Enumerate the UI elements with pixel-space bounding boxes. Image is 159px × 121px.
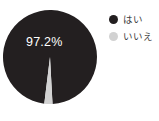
chart-legend: はい いいえ: [109, 11, 159, 45]
legend-swatch-icon-hai: [109, 15, 118, 24]
legend-item-iie[interactable]: いいえ: [109, 28, 159, 45]
pie-chart-area: 97.2%: [0, 0, 101, 121]
pie-slices: [3, 10, 97, 104]
pie-chart-svg: [0, 0, 101, 121]
pie-chart-screenshot: 97.2% はい いいえ: [0, 0, 159, 121]
legend-item-hai[interactable]: はい: [109, 11, 159, 28]
legend-swatch-icon-iie: [109, 32, 118, 41]
legend-label-hai: はい: [123, 15, 143, 25]
pie-slice-value-label: 97.2%: [26, 36, 62, 49]
legend-label-iie: いいえ: [123, 32, 153, 42]
